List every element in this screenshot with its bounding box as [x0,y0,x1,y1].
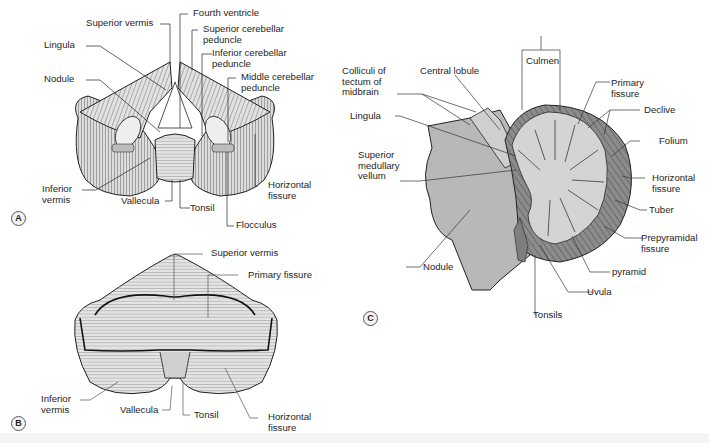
label-c-tuber: Tuber [649,205,674,216]
panel-b-drawing [75,255,278,394]
label-b-inferior-vermis: Inferior vermis [41,394,71,415]
label-c-culmen: Culmen [526,56,559,67]
panel-tag-c: C [363,311,378,326]
panel-c-drawing [425,105,631,290]
label-a-nodule: Nodule [44,74,74,85]
label-a-horizontal-fissure: Horizontal fissure [268,180,311,201]
label-c-prepyramidal-fissure: Prepyramidal fissure [641,233,698,254]
label-a-tonsil: Tonsil [190,203,215,214]
panel-tag-a: A [11,211,26,226]
label-a-lingula: Lingula [44,40,75,51]
label-c-lingula: Lingula [350,111,381,122]
label-c-nodule: Nodule [423,262,453,273]
label-b-vallecula: Vallecula [120,405,158,416]
label-a-superior-vermis: Superior vermis [86,18,153,29]
label-c-uvula: Uvula [587,287,612,298]
label-a-inferior-cerebellar-peduncle: Inferior cerebellar peduncle [212,48,287,69]
label-a-inferior-vermis: Inferior vermis [42,184,72,205]
panel-tag-b: B [11,416,26,431]
label-c-horizontal-fissure: Horizontal fissure [652,173,695,194]
label-c-superior-medullary-vellum: Superior medullary vellum [358,150,400,182]
label-a-superior-cerebellar-peduncle: Superior cerebellar peduncle [203,24,284,45]
label-c-pyramid: pyramid [612,267,646,278]
label-b-tonsil: Tonsil [194,410,219,421]
caption-strip [0,433,709,443]
label-c-declive: Declive [644,105,675,116]
label-b-horizontal-fissure: Horizontal fissure [268,412,311,433]
label-a-vallecula: Vallecula [121,196,159,207]
label-b-superior-vermis: Superior vermis [211,248,278,259]
label-a-flocculus: Flocculus [236,220,277,231]
label-c-colliculi: Colliculi of tectum of midbrain [342,66,386,98]
label-b-primary-fissure: Primary fissure [248,270,312,281]
label-c-folium: Folium [659,136,688,147]
label-c-tonsils: Tonsils [533,310,562,321]
label-c-central-lobule: Central lobule [420,66,479,77]
label-c-primary-fissure: Primary fissure [611,78,644,99]
label-a-middle-cerebellar-peduncle: Middle cerebellar peduncle [241,72,314,93]
label-a-fourth-ventricle: Fourth ventricle [193,8,259,19]
